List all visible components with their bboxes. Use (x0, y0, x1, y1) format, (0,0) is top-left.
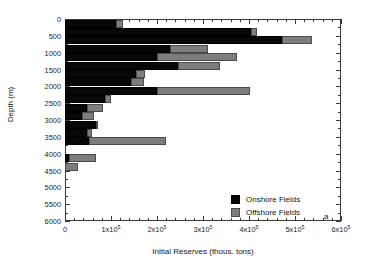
y-major-tick (65, 187, 70, 188)
x-minor-tick (267, 218, 268, 221)
bar-row (0, 36, 372, 44)
legend-item-offshore: Offshore Fields (231, 206, 300, 219)
x-tick-label: 4x105 (239, 225, 258, 234)
x-minor-tick (166, 218, 167, 221)
offshore-swatch-icon (231, 208, 240, 217)
x-minor-tick (221, 218, 222, 221)
x-minor-tick (185, 218, 186, 221)
y-major-tick (65, 204, 70, 205)
x-minor-tick (148, 218, 149, 221)
x-minor-tick (74, 218, 75, 221)
chart-figure: Depth (m) Initial Reserves (thous. tons)… (0, 0, 372, 270)
y-minor-tick (65, 179, 68, 180)
y-minor-tick (338, 179, 341, 180)
y-major-tick (65, 221, 70, 222)
x-minor-tick (240, 218, 241, 221)
bar-segment-offshore (105, 95, 111, 103)
x-tick-label: 0 (63, 225, 67, 234)
panel-label: a (324, 212, 328, 221)
y-minor-tick (338, 213, 341, 214)
x-minor-tick (323, 218, 324, 221)
x-minor-tick (129, 218, 130, 221)
bar-segment-offshore (87, 129, 92, 137)
bar-segment-onshore (65, 112, 82, 120)
bar-segment-onshore (65, 87, 157, 95)
x-minor-tick (286, 218, 287, 221)
bar-segment-offshore (157, 53, 237, 61)
bar-segment-onshore (65, 78, 131, 86)
y-major-tick (65, 171, 70, 172)
bar-segment-onshore (65, 121, 96, 129)
x-tick-label: 5x105 (285, 225, 304, 234)
bar-segment-offshore (170, 45, 208, 53)
bar-segment-offshore (282, 36, 312, 44)
bar-row (0, 112, 372, 120)
y-major-tick (336, 187, 341, 188)
y-major-tick (336, 204, 341, 205)
bar-segment-onshore (65, 28, 251, 36)
y-minor-tick (338, 196, 341, 197)
x-minor-tick (93, 218, 94, 221)
bar-segment-onshore (65, 137, 89, 145)
bar-segment-onshore (65, 36, 282, 44)
x-tick-label: 2x105 (147, 225, 166, 234)
x-major-tick (295, 216, 296, 221)
chart-legend: Onshore Fields Offshore Fields (231, 193, 300, 219)
y-tick-label: 6000 (31, 217, 61, 226)
x-minor-tick (120, 218, 121, 221)
bar-segment-offshore (178, 62, 220, 70)
bar-segment-onshore (65, 53, 157, 61)
x-minor-tick (332, 218, 333, 221)
y-major-tick (336, 171, 341, 172)
bar-segment-offshore (157, 87, 250, 95)
bar-segment-offshore (82, 112, 94, 120)
x-minor-tick (102, 218, 103, 221)
bar-row (0, 154, 372, 162)
x-minor-tick (212, 218, 213, 221)
bar-segment-offshore (96, 121, 98, 129)
bar-segment-offshore (69, 154, 96, 162)
y-minor-tick (338, 145, 341, 146)
bar-segment-onshore (65, 104, 87, 112)
bar-row (0, 163, 372, 171)
bar-segment-onshore (65, 129, 87, 137)
bar-segment-offshore (65, 163, 78, 171)
bar-segment-offshore (89, 137, 166, 145)
x-minor-tick (313, 218, 314, 221)
x-major-tick (249, 216, 250, 221)
y-tick-label: 5500 (31, 200, 61, 209)
legend-label-offshore: Offshore Fields (246, 208, 300, 217)
x-minor-tick (83, 218, 84, 221)
bar-segment-offshore (87, 104, 103, 112)
y-tick-label: 5000 (31, 183, 61, 192)
x-minor-tick (175, 218, 176, 221)
x-tick-label: 6x105 (331, 225, 350, 234)
bar-segment-offshore (116, 20, 123, 28)
bar-segment-onshore (65, 20, 116, 28)
bar-row (0, 137, 372, 145)
x-minor-tick (231, 218, 232, 221)
x-tick-label: 3x105 (193, 225, 212, 234)
x-minor-tick (277, 218, 278, 221)
x-major-tick (111, 216, 112, 221)
bar-row (0, 20, 372, 28)
bar-segment-onshore (65, 95, 105, 103)
bar-row (0, 62, 372, 70)
bar-segment-onshore (65, 70, 136, 78)
bar-segment-offshore (136, 70, 145, 78)
y-minor-tick (65, 196, 68, 197)
bar-segment-offshore (131, 78, 144, 86)
x-minor-tick (304, 218, 305, 221)
bar-row (0, 104, 372, 112)
bar-segment-onshore (65, 45, 170, 53)
legend-label-onshore: Onshore Fields (246, 195, 300, 204)
x-major-tick (157, 216, 158, 221)
bar-row (0, 70, 372, 78)
onshore-swatch-icon (231, 195, 240, 204)
bar-row (0, 45, 372, 53)
bar-row (0, 28, 372, 36)
x-major-tick (203, 216, 204, 221)
x-minor-tick (258, 218, 259, 221)
bar-row (0, 53, 372, 61)
x-tick-label: 1x105 (101, 225, 120, 234)
